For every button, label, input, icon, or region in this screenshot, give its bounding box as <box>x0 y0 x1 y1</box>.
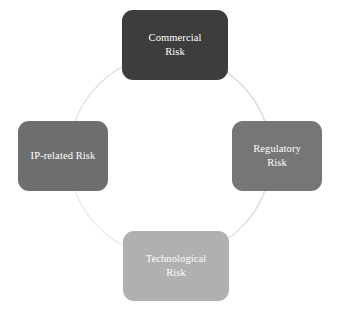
node-technological-risk-label: Technological Risk <box>146 252 207 280</box>
node-regulatory-risk[interactable]: Regulatory Risk <box>232 121 322 191</box>
node-commercial-risk-label: Commercial Risk <box>149 31 202 59</box>
node-technological-risk[interactable]: Technological Risk <box>123 231 229 301</box>
node-regulatory-risk-label: Regulatory Risk <box>253 142 301 170</box>
node-commercial-risk[interactable]: Commercial Risk <box>122 10 228 80</box>
risk-cycle-diagram: Commercial Risk Regulatory Risk Technolo… <box>0 0 338 313</box>
node-ip-related-risk[interactable]: IP-related Risk <box>18 121 108 191</box>
node-ip-related-risk-label: IP-related Risk <box>31 149 96 163</box>
